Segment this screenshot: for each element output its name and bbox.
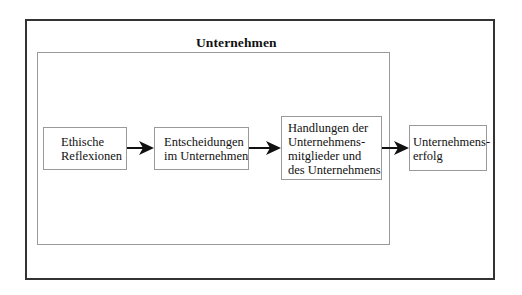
- box-label-line: Handlungen der: [288, 121, 381, 135]
- box-label-line: Unternehmens-: [288, 135, 381, 149]
- box-label-line: des Unternehmens: [288, 163, 381, 177]
- box-handlungen: Handlungen der Unternehmens- mitglieder …: [281, 116, 382, 180]
- box-label-line: Ethische: [61, 135, 126, 149]
- box-label-line: Unternehmens-: [413, 135, 486, 149]
- box-ethische-reflexionen: Ethische Reflexionen: [43, 127, 127, 170]
- box-label-line: erfolg: [413, 149, 486, 163]
- box-label-line: mitglieder und: [288, 149, 381, 163]
- box-unternehmenserfolg: Unternehmens- erfolg: [409, 125, 487, 171]
- box-entscheidungen: Entscheidungen im Unternehmen: [154, 127, 249, 170]
- company-frame-title: Unternehmen: [196, 35, 277, 51]
- box-label-line: Reflexionen: [61, 149, 126, 163]
- box-label-line: Entscheidungen: [164, 135, 248, 149]
- box-label-line: im Unternehmen: [164, 149, 248, 163]
